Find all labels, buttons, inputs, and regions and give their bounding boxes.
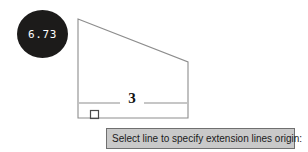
value-bubble: 6.73 (17, 10, 68, 58)
dimension-value-label: 3 (123, 91, 141, 106)
square-osnap-marker-icon (91, 111, 99, 119)
command-prompt-tooltip: Select line to specify extension lines o… (106, 128, 295, 149)
cad-canvas[interactable]: 6.73 3 Select line to specify extension … (0, 0, 308, 152)
value-bubble-text: 6.73 (28, 29, 57, 40)
command-prompt-text: Select line to specify extension lines o… (112, 134, 302, 144)
